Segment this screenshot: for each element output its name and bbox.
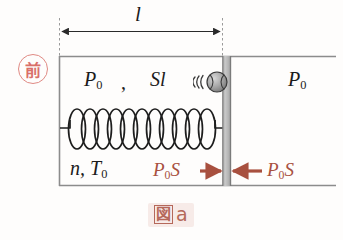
gas-volume-label: Sl xyxy=(150,69,166,89)
before-state-stamp: 前 xyxy=(18,54,48,84)
force-left-label: P0S xyxy=(153,160,180,182)
spring-icon xyxy=(60,109,224,149)
caption-cjk: 図 xyxy=(154,205,173,224)
gas-pressure-label: P0 xyxy=(84,69,102,92)
ball-icon xyxy=(193,69,231,95)
physics-figure: l P0 , Sl P0 n, T0 P0S P0S 前 図 a xyxy=(0,0,343,240)
label-separator: , xyxy=(121,72,126,92)
dimension-extension-lines xyxy=(60,18,223,56)
gas-moles-temperature-label: n, T0 xyxy=(70,158,107,181)
outside-pressure-label: P0 xyxy=(288,69,306,92)
dimension-label: l xyxy=(135,4,141,25)
caption-latin: a xyxy=(174,205,188,224)
force-right-label: P0S xyxy=(267,160,294,182)
figure-caption: 図 a xyxy=(148,203,194,227)
